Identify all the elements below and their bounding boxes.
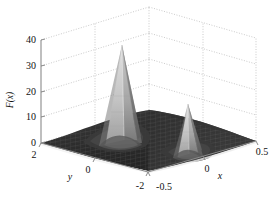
y-tick-label-neg2: -2 — [136, 180, 144, 191]
z-tick-label-0: 0 — [31, 137, 36, 148]
primary-peak — [99, 45, 142, 150]
y-tick-label-2: 2 — [32, 149, 37, 160]
figure-3d-surface-plot: 40 30 20 10 0 F(x) 2 0 -2 y -0.5 0 0.5 x — [0, 0, 274, 203]
z-tick-label-30: 30 — [26, 60, 36, 71]
z-axis-label: F(x) — [5, 92, 16, 109]
z-axis — [41, 39, 45, 144]
x-tick-label-neg05: -0.5 — [156, 181, 172, 192]
x-tick-label-0: 0 — [205, 163, 210, 174]
y-axis-label: y — [67, 171, 73, 182]
surface-plot-canvas: 40 30 20 10 0 F(x) 2 0 -2 y -0.5 0 0.5 x — [0, 0, 274, 203]
z-tick-label-20: 20 — [26, 86, 36, 97]
z-tick-label-40: 40 — [26, 34, 36, 45]
surface-mesh-base — [30, 100, 270, 180]
x-tick-label-05: 0.5 — [256, 146, 269, 157]
y-tick-label-0: 0 — [86, 164, 91, 175]
z-tick-label-10: 10 — [26, 111, 36, 122]
x-axis-label: x — [217, 170, 223, 181]
